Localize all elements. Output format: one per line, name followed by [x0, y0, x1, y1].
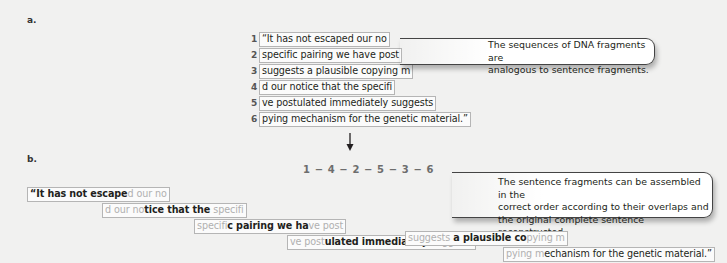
fragment-overlap-in: d our no — [105, 204, 144, 215]
fragment-box: d our notice that the specifi — [259, 80, 395, 95]
callout-b: The sentence fragments can be assembled … — [452, 172, 713, 218]
fragment-overlap-in: ve post — [290, 236, 325, 247]
fragment-box: suggests a plausible copying m — [259, 64, 413, 79]
assembled-fragment-6: pying mechanism for the genetic material… — [503, 242, 715, 262]
panel-b-label: b. — [27, 154, 37, 164]
fragment-box: pying mechanism for the genetic material… — [503, 247, 715, 262]
fragment-row: 5 ve postulated immediately suggests — [251, 95, 471, 111]
fragment-box: specific pairing we have post — [259, 48, 402, 63]
down-arrow-icon — [345, 133, 355, 151]
fragment-number: 3 — [251, 66, 259, 76]
fragment-number: 5 — [251, 98, 259, 108]
fragment-row: 6 pying mechanism for the genetic materi… — [251, 111, 471, 127]
fragment-number: 4 — [251, 82, 259, 92]
fragment-number: 1 — [251, 34, 259, 44]
callout-b-line: correct order according to their overlap… — [498, 201, 712, 214]
fragment-overlap-in: suggests — [408, 232, 450, 243]
callout-a-line: analogous to sentence fragments. — [488, 64, 654, 77]
fragment-order: 1 − 4 − 2 − 5 − 3 − 6 — [303, 164, 434, 175]
fragment-new-text: echanism for the genetic material.” — [544, 248, 712, 259]
fragment-row: 4 d our notice that the specifi — [251, 79, 471, 95]
callout-a-line: The sequences of DNA fragments are — [488, 39, 654, 64]
fragment-overlap-in: pying m — [506, 248, 544, 259]
fragment-number: 2 — [251, 50, 259, 60]
fragment-box: pying mechanism for the genetic material… — [259, 112, 471, 127]
callout-b-line: The sentence fragments can be assembled … — [498, 176, 712, 201]
fragment-number: 6 — [251, 114, 259, 124]
panel-a-label: a. — [27, 15, 37, 25]
fragment-overlap-in: specifi — [197, 220, 227, 231]
callout-a: The sequences of DNA fragments are analo… — [400, 38, 655, 65]
fragment-row: 3 suggests a plausible copying m — [251, 63, 471, 79]
fragment-box: ve postulated immediately suggests — [259, 96, 436, 111]
fragment-box: “It has not escaped our no — [259, 32, 390, 47]
